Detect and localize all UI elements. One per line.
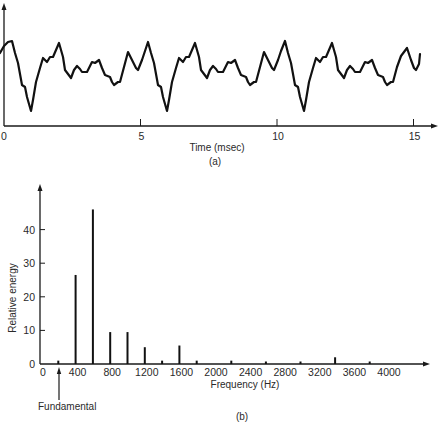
- panel-a-x-tick-label: 15: [409, 130, 421, 142]
- panel-b-y-tick-label: 0: [29, 358, 35, 370]
- panel-b-x-tick-label: 2000: [204, 366, 228, 378]
- panel-b-x-tick-label: 800: [103, 366, 121, 378]
- panel-b-x-tick-label: 4000: [377, 366, 401, 378]
- panel-a-x-ticks: 051015: [1, 119, 420, 142]
- panel-a-y-axis-arrow-icon: [2, 3, 7, 10]
- panel-a-x-tick-label: 0: [1, 130, 7, 142]
- panel-b-x-tick-label: 0: [40, 366, 46, 378]
- panel-b-y-tick-label: 20: [23, 291, 35, 303]
- fundamental-label: Fundamental: [38, 401, 96, 412]
- panel-b-y-tick-label: 30: [23, 257, 35, 269]
- panel-a-x-axis-title: Time (msec): [189, 142, 244, 153]
- panel-a-x-axis-arrow-icon: [431, 124, 438, 129]
- panel-a-x-tick-label: 10: [272, 130, 284, 142]
- panel-a-label: (a): [209, 156, 221, 167]
- panel-b-x-tick-labels: 040080012001600200024002800320036004000: [40, 366, 401, 378]
- panel-a-x-tick-label: 5: [139, 130, 145, 142]
- panel-b-x-axis-arrow-icon: [423, 362, 430, 367]
- panel-b-bars: [58, 209, 369, 364]
- panel-b-y-axis-arrow-icon: [38, 184, 43, 191]
- panel-b-x-tick-label: 1600: [170, 366, 194, 378]
- panel-a-waveform: 051015 Time (msec) (a): [0, 3, 438, 167]
- panel-b-x-tick-label: 1200: [135, 366, 159, 378]
- panel-b-y-axis-title: Relative energy: [7, 263, 18, 332]
- fundamental-annotation: Fundamental: [38, 367, 96, 412]
- panel-b-x-tick-label: 2800: [274, 366, 298, 378]
- panel-b-x-tick-label: 400: [69, 366, 87, 378]
- panel-b-spectrum: 010203040 040080012001600200024002800320…: [7, 184, 430, 422]
- figure: 051015 Time (msec) (a) 010203040 0400800…: [0, 0, 440, 430]
- panel-b-y-ticks: 010203040: [23, 224, 45, 370]
- panel-b-label: (b): [236, 411, 248, 422]
- waveform-line: [0, 41, 420, 111]
- panel-b-x-axis-title: Frequency (Hz): [211, 379, 280, 390]
- panel-b-y-tick-label: 40: [23, 224, 35, 236]
- panel-b-x-tick-label: 3200: [308, 366, 332, 378]
- fundamental-arrow-icon: [57, 367, 61, 374]
- panel-b-y-tick-label: 10: [23, 324, 35, 336]
- panel-b-x-tick-label: 3600: [343, 366, 367, 378]
- panel-b-x-tick-label: 2400: [239, 366, 263, 378]
